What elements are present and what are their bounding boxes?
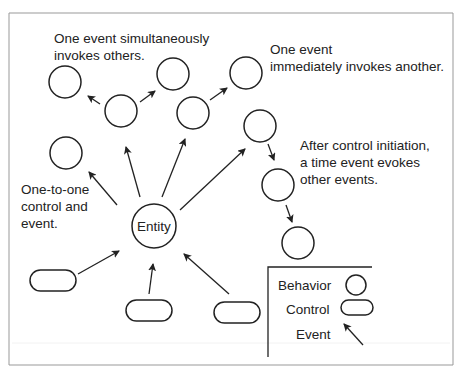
legend-behavior-label: Behavior [278,278,332,293]
event-arrow [268,144,274,160]
event-arrow [78,251,119,274]
legend-event-label: Event [296,327,331,342]
annotation-simultaneous-line2: invokes others. [54,48,145,63]
event-arrow [210,88,227,100]
event-arrow [89,172,117,205]
control-pill [30,270,76,291]
behavior-circle [282,227,314,259]
event-arrow [286,205,292,222]
annotation-immediate-line1: One event [270,42,333,57]
annotation-one-to-one-line3: event. [21,216,58,231]
annotation-simultaneous-line1: One event simultaneously [54,31,210,46]
event-arrow [88,96,100,104]
annotation-time-event-line1: After control initiation, [300,138,430,153]
annotation-one-to-one-line1: One-to-one [21,182,89,197]
legend-control-label: Control [286,302,330,317]
legend-control-pill [341,300,373,315]
entity-label: Entity [137,219,171,234]
annotation-time-event-line2: a time event evokes [300,155,420,170]
behavior-circle [262,169,294,201]
annotation-time-event-line3: other events. [300,172,378,187]
annotation-one-to-one-line2: control and [21,199,88,214]
behavior-circle [105,95,137,127]
behavior-circle [230,57,262,89]
behavior-circle [244,110,276,142]
legend-behavior-circle [346,275,366,295]
event-arrow [126,147,140,197]
event-arrow [184,254,229,294]
behavior-circle [49,66,81,98]
control-pill [214,302,260,323]
event-arrow [180,149,245,210]
control-pill [126,300,172,321]
event-arrow [149,264,153,294]
event-arrow [140,91,155,102]
annotation-immediate-line2: immediately invokes another. [270,59,444,74]
behavior-circle [177,97,209,129]
behavior-circle [157,58,189,90]
event-arrow [162,139,185,197]
behavior-diagram: One event simultaneously invokes others.… [0,0,465,380]
behavior-circle [50,137,82,169]
legend-event-arrow [344,324,363,345]
